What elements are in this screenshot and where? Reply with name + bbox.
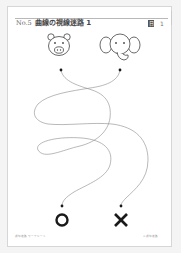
cross-goal-icon bbox=[115, 214, 127, 226]
circle-goal-icon bbox=[57, 215, 68, 226]
maze-drawing bbox=[0, 0, 181, 253]
elephant-icon bbox=[100, 34, 140, 60]
start-dot-pig bbox=[60, 69, 63, 72]
pig-icon bbox=[48, 34, 70, 56]
end-dot-o bbox=[61, 205, 64, 208]
end-dot-x bbox=[120, 205, 123, 208]
maze-path-elephant bbox=[34, 70, 148, 206]
start-dot-elephant bbox=[119, 69, 122, 72]
